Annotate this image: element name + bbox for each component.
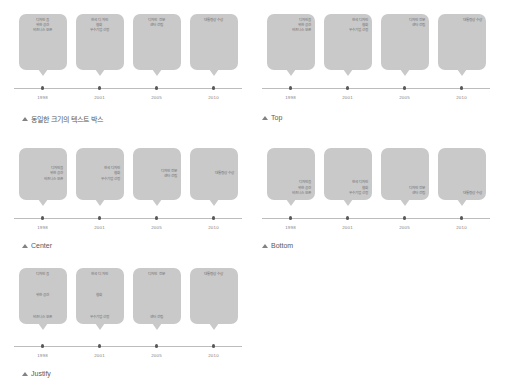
timeline-bubble[interactable]: 한국 디자인협회우수기업 선정 bbox=[76, 268, 124, 324]
timeline-top: 디자인을위한 공간비즈니스 오픈한국 디자인협회우수기업 선정디자인 전문센터 … bbox=[262, 10, 490, 130]
timeline-bubble[interactable]: 대통령상 수상 bbox=[190, 268, 238, 324]
bubble-slot: 디자인 전문센터 건립 bbox=[128, 268, 185, 324]
triangle-marker-icon bbox=[22, 372, 28, 376]
bubble-text-line: 위한 공간 bbox=[22, 293, 64, 298]
timeline-axis bbox=[14, 218, 242, 219]
panel-justify: 디자인을위한 공간비즈니스 오픈한국 디자인협회우수기업 선정디자인 전문센터 … bbox=[14, 268, 242, 383]
timeline-dot[interactable] bbox=[155, 216, 159, 220]
caption-label: Bottom bbox=[271, 242, 293, 249]
bubble-tail-icon bbox=[457, 69, 467, 76]
timeline-dot[interactable] bbox=[155, 344, 159, 348]
year-label: 2010 bbox=[456, 95, 467, 100]
panel-bottom: 디자인을위한 공간비즈니스 오픈한국 디자인협회우수기업 선정디자인 전문센터 … bbox=[262, 148, 490, 258]
panel-top: 디자인을위한 공간비즈니스 오픈한국 디자인협회우수기업 선정디자인 전문센터 … bbox=[262, 10, 490, 130]
caption-label: Top bbox=[271, 114, 282, 121]
triangle-marker-icon bbox=[262, 244, 268, 248]
timeline-bubble[interactable]: 한국 디자인협회우수기업 선정 bbox=[324, 148, 372, 200]
bubble-text-line: 우수기업 선정 bbox=[327, 28, 369, 33]
bubble-row: 디자인을위한 공간비즈니스 오픈한국 디자인협회우수기업 선정디자인 전문센터 … bbox=[14, 148, 242, 200]
bubble-text-line: 협회 bbox=[79, 293, 121, 298]
timeline-bubble[interactable]: 대통령상 수상 bbox=[190, 14, 238, 70]
bubble-slot: 대통령상 수상 bbox=[185, 14, 242, 70]
timeline-bubble[interactable]: 디자인 전문센터 건립 bbox=[133, 268, 181, 324]
timeline-dot[interactable] bbox=[289, 86, 293, 90]
timeline-dot[interactable] bbox=[460, 216, 464, 220]
timeline-dot[interactable] bbox=[346, 86, 350, 90]
timeline-bubble[interactable]: 한국 디자인협회우수기업 선정 bbox=[324, 14, 372, 70]
caption-equal-size: 동일한 크기의 텍스트 박스 bbox=[22, 114, 103, 124]
year-label: 2010 bbox=[208, 225, 219, 230]
bubble-tail-icon bbox=[209, 199, 219, 206]
timeline-bubble[interactable]: 한국 디자인협회우수기업 선정 bbox=[76, 14, 124, 70]
timeline-dot[interactable] bbox=[41, 86, 45, 90]
timeline-bubble[interactable]: 대통령상 수상 bbox=[438, 148, 486, 200]
panel-center: 디자인을위한 공간비즈니스 오픈한국 디자인협회우수기업 선정디자인 전문센터 … bbox=[14, 148, 242, 258]
bubble-tail-icon bbox=[343, 69, 353, 76]
bubble-slot: 대통령상 수상 bbox=[185, 148, 242, 200]
timeline-bubble[interactable]: 디자인을위한 공간비즈니스 오픈 bbox=[267, 14, 315, 70]
timeline-alignment-reference-sheet: { "entries": [ { "year": "1998", "lines"… bbox=[0, 0, 506, 388]
timeline-bubble[interactable]: 디자인 전문센터 건립 bbox=[381, 14, 429, 70]
bubble-slot: 디자인 전문센터 건립 bbox=[128, 148, 185, 200]
bubble-slot: 디자인을위한 공간비즈니스 오픈 bbox=[14, 148, 71, 200]
timeline-bubble[interactable]: 디자인을위한 공간비즈니스 오픈 bbox=[19, 148, 67, 200]
timeline-bubble[interactable]: 디자인 전문센터 건립 bbox=[381, 148, 429, 200]
timeline-dot[interactable] bbox=[289, 216, 293, 220]
year-label: 2005 bbox=[399, 225, 410, 230]
bubble-tail-icon bbox=[209, 69, 219, 76]
timeline-equal-size: 디자인을위한 공간비즈니스 오픈한국 디자인협회우수기업 선정디자인 전문센터 … bbox=[14, 10, 242, 130]
timeline-bottom: 디자인을위한 공간비즈니스 오픈한국 디자인협회우수기업 선정디자인 전문센터 … bbox=[262, 148, 490, 258]
timeline-dot[interactable] bbox=[212, 86, 216, 90]
timeline-bubble[interactable]: 디자인 전문센터 건립 bbox=[133, 14, 181, 70]
bubble-tail-icon bbox=[286, 69, 296, 76]
bubble-text-line: 비즈니스 오픈 bbox=[270, 191, 312, 196]
bubble-slot: 디자인을위한 공간비즈니스 오픈 bbox=[14, 268, 71, 324]
bubble-text-line: 우수기업 선정 bbox=[327, 191, 369, 196]
bubble-text-line: 디자인 전문 bbox=[136, 272, 178, 277]
timeline-dot[interactable] bbox=[155, 86, 159, 90]
bubble-slot: 한국 디자인협회우수기업 선정 bbox=[71, 148, 128, 200]
timeline-bubble[interactable]: 디자인을위한 공간비즈니스 오픈 bbox=[19, 14, 67, 70]
year-label: 1998 bbox=[37, 95, 48, 100]
bubble-slot: 한국 디자인협회우수기업 선정 bbox=[71, 268, 128, 324]
timeline-dot[interactable] bbox=[403, 86, 407, 90]
year-label: 2010 bbox=[456, 225, 467, 230]
year-label: 2001 bbox=[342, 95, 353, 100]
bubble-text-line: 대통령상 수상 bbox=[193, 18, 235, 23]
bubble-slot: 대통령상 수상 bbox=[433, 148, 490, 200]
bubble-slot: 한국 디자인협회우수기업 선정 bbox=[319, 148, 376, 200]
bubble-slot: 대통령상 수상 bbox=[185, 268, 242, 324]
timeline-dot[interactable] bbox=[403, 216, 407, 220]
timeline-dot[interactable] bbox=[346, 216, 350, 220]
triangle-marker-icon bbox=[22, 244, 28, 248]
bubble-text-line: 비즈니스 오픈 bbox=[270, 28, 312, 33]
year-label: 2005 bbox=[151, 353, 162, 358]
timeline-dot[interactable] bbox=[460, 86, 464, 90]
timeline-bubble[interactable]: 디자인 전문센터 건립 bbox=[133, 148, 181, 200]
bubble-tail-icon bbox=[400, 199, 410, 206]
timeline-dot[interactable] bbox=[212, 216, 216, 220]
timeline-bubble[interactable]: 디자인을위한 공간비즈니스 오픈 bbox=[19, 268, 67, 324]
caption-justify: Justify bbox=[22, 370, 51, 377]
bubble-text-line: 대통령상 수상 bbox=[193, 272, 235, 277]
triangle-marker-icon bbox=[22, 117, 28, 121]
bubble-text-line: 센터 건립 bbox=[384, 23, 426, 28]
triangle-marker-icon bbox=[262, 116, 268, 120]
bubble-tail-icon bbox=[343, 199, 353, 206]
timeline-bubble[interactable]: 디자인을위한 공간비즈니스 오픈 bbox=[267, 148, 315, 200]
bubble-slot: 디자인 전문센터 건립 bbox=[376, 148, 433, 200]
timeline-bubble[interactable]: 한국 디자인협회우수기업 선정 bbox=[76, 148, 124, 200]
timeline-dot[interactable] bbox=[41, 344, 45, 348]
timeline-bubble[interactable]: 대통령상 수상 bbox=[190, 148, 238, 200]
timeline-dot[interactable] bbox=[212, 344, 216, 348]
bubble-tail-icon bbox=[38, 69, 48, 76]
bubble-text-line: 비즈니스 오픈 bbox=[22, 315, 64, 320]
year-label: 2010 bbox=[208, 95, 219, 100]
bubble-text-line: 비즈니스 오픈 bbox=[22, 28, 64, 33]
timeline-dot[interactable] bbox=[98, 344, 102, 348]
timeline-dot[interactable] bbox=[41, 216, 45, 220]
timeline-dot[interactable] bbox=[98, 86, 102, 90]
caption-top: Top bbox=[262, 114, 282, 121]
timeline-bubble[interactable]: 대통령상 수상 bbox=[438, 14, 486, 70]
timeline-dot[interactable] bbox=[98, 216, 102, 220]
